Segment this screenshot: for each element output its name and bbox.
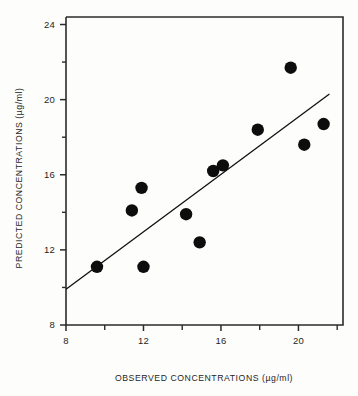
x-tick-label: 16 bbox=[215, 335, 226, 346]
x-tick-label: 20 bbox=[293, 335, 304, 346]
data-point bbox=[193, 236, 205, 248]
x-axis-ticks bbox=[66, 325, 337, 331]
data-point bbox=[217, 159, 229, 171]
x-axis-title: OBSERVED CONCENTRATIONS (µg/ml) bbox=[115, 373, 293, 383]
regression-line bbox=[66, 94, 329, 289]
data-point bbox=[317, 118, 329, 130]
y-tick-label: 16 bbox=[44, 169, 55, 180]
data-point bbox=[91, 261, 103, 273]
data-point bbox=[298, 139, 310, 151]
y-tick-label: 20 bbox=[44, 94, 55, 105]
y-axis-title: PREDICTED CONCENTRATIONS (µg/ml) bbox=[14, 88, 24, 269]
y-tick-label: 8 bbox=[50, 319, 55, 330]
y-tick-label: 24 bbox=[44, 19, 55, 30]
data-point bbox=[126, 204, 138, 216]
data-point bbox=[180, 208, 192, 220]
y-axis-tick-labels: 812162024 bbox=[44, 19, 55, 330]
x-axis-tick-labels: 8121620 bbox=[63, 335, 304, 346]
plot-frame bbox=[66, 17, 343, 325]
plot-canvas: 812162024 8121620 OBSERVED CONCENTRATION… bbox=[0, 0, 358, 396]
data-point bbox=[137, 261, 149, 273]
scatter-plot-figure: 812162024 8121620 OBSERVED CONCENTRATION… bbox=[0, 0, 358, 396]
y-axis-ticks bbox=[60, 25, 66, 325]
data-point bbox=[252, 123, 264, 135]
x-tick-label: 12 bbox=[138, 335, 149, 346]
data-point bbox=[135, 182, 147, 194]
axes-frame bbox=[66, 17, 343, 325]
y-tick-label: 12 bbox=[44, 244, 55, 255]
data-point bbox=[284, 62, 296, 74]
x-tick-label: 8 bbox=[63, 335, 68, 346]
data-point-series bbox=[91, 62, 330, 273]
